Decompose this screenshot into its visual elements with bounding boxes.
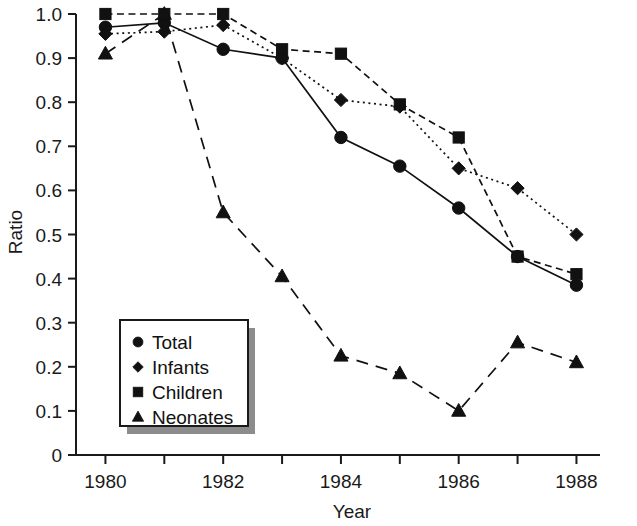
marker-circle bbox=[394, 160, 406, 172]
y-tick-label: 0.3 bbox=[36, 313, 62, 334]
legend-item-label: Infants bbox=[152, 357, 209, 378]
marker-square bbox=[453, 132, 464, 143]
marker-diamond bbox=[452, 162, 465, 175]
x-axis-title: Year bbox=[333, 501, 372, 522]
y-tick-label: 0.2 bbox=[36, 357, 62, 378]
x-tick-label: 1988 bbox=[555, 471, 597, 492]
marker-square bbox=[218, 8, 229, 19]
chart-legend: TotalInfantsChildrenNeonates bbox=[120, 320, 255, 434]
y-tick-label: 0.4 bbox=[36, 269, 63, 290]
y-tick-label: 0 bbox=[51, 445, 62, 466]
y-tick-label: 1.0 bbox=[36, 4, 62, 25]
marker-square bbox=[276, 44, 287, 55]
legend-item-label: Total bbox=[152, 332, 192, 353]
marker-circle bbox=[570, 279, 582, 291]
legend-item-label: Children bbox=[152, 382, 223, 403]
x-tick-label: 1982 bbox=[202, 471, 244, 492]
x-tick-label: 1986 bbox=[438, 471, 480, 492]
y-tick-label: 0.9 bbox=[36, 48, 62, 69]
marker-triangle bbox=[275, 269, 289, 282]
marker-square bbox=[512, 251, 523, 262]
marker-circle bbox=[133, 337, 143, 347]
marker-circle bbox=[335, 131, 347, 143]
marker-triangle bbox=[334, 348, 348, 361]
marker-triangle bbox=[216, 205, 230, 218]
y-tick-label-group: 00.10.20.30.40.50.60.70.80.91.0 bbox=[36, 4, 63, 466]
marker-triangle bbox=[98, 46, 112, 59]
y-axis-title: Ratio bbox=[5, 210, 26, 254]
marker-square bbox=[133, 387, 143, 397]
y-tick-label: 0.6 bbox=[36, 180, 62, 201]
x-tick-label: 1980 bbox=[84, 471, 126, 492]
marker-square bbox=[335, 48, 346, 59]
chart-canvas: 00.10.20.30.40.50.60.70.80.91.0 19801982… bbox=[0, 0, 637, 526]
marker-square bbox=[394, 99, 405, 110]
y-tick-label: 0.7 bbox=[36, 136, 62, 157]
marker-square bbox=[571, 269, 582, 280]
series-line-total bbox=[105, 23, 576, 285]
marker-diamond bbox=[217, 18, 230, 31]
y-tick-label: 0.8 bbox=[36, 92, 62, 113]
chart-container: 00.10.20.30.40.50.60.70.80.91.0 19801982… bbox=[0, 0, 637, 526]
y-tick-label: 0.1 bbox=[36, 401, 62, 422]
legend-item-label: Neonates bbox=[152, 407, 233, 428]
marker-circle bbox=[217, 43, 229, 55]
marker-triangle bbox=[511, 335, 525, 348]
x-tick-label-group: 19801982198419861988 bbox=[84, 471, 597, 492]
x-tick-label: 1984 bbox=[320, 471, 363, 492]
marker-diamond bbox=[334, 93, 347, 106]
marker-circle bbox=[452, 202, 464, 214]
y-tick-label: 0.5 bbox=[36, 225, 62, 246]
marker-square bbox=[100, 8, 111, 19]
